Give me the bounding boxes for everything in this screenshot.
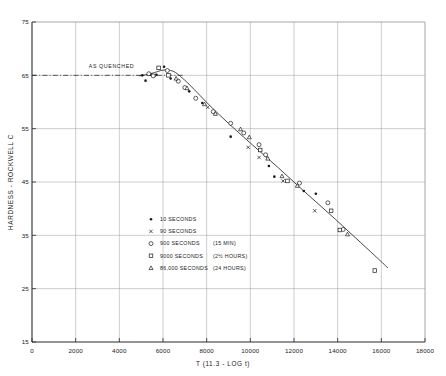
legend-marker-open-circle (149, 242, 153, 246)
legend-marker-filled-circle (150, 218, 153, 221)
as-quenched-label: AS QUENCHED (89, 63, 134, 69)
x-tick-label: 0 (30, 347, 34, 354)
data-point-open-circle (194, 96, 198, 100)
y-tick-label: 15 (22, 338, 30, 345)
y-axis-title: HARDNESS - ROCKWELL C (7, 134, 14, 230)
legend-item: 9000 SECONDS(2½ HOURS) (149, 253, 247, 259)
x-tick-label: 14000 (329, 347, 348, 354)
hardness-vs-tempering-parameter-chart: 0200040006000800010000120001400016000180… (0, 0, 446, 376)
data-point-open-square (338, 228, 342, 232)
chart-container: 0200040006000800010000120001400016000180… (0, 0, 446, 376)
x-tick-label: 2000 (68, 347, 83, 354)
y-tick-label: 65 (22, 72, 30, 79)
data-point-open-square (329, 209, 333, 213)
data-point-filled-circle (315, 192, 318, 195)
data-point-open-square (157, 66, 161, 70)
data-point-filled-circle (163, 65, 166, 68)
data-point-open-circle (326, 201, 330, 205)
data-point-open-circle (147, 72, 151, 76)
x-tick-label: 12000 (285, 347, 304, 354)
data-point-open-circle (151, 74, 155, 78)
x-tick-label: 16000 (372, 347, 391, 354)
legend-label: 86,000 SECONDS (160, 265, 208, 271)
legend-item: 86,000 SECONDS(24 HOURS) (149, 265, 246, 271)
x-tick-label: 6000 (156, 347, 171, 354)
legend-item: 900 SECONDS(15 MIN) (149, 240, 236, 246)
x-axis-title: T (11.3 - LOG t) (196, 360, 250, 368)
data-point-open-square (167, 74, 171, 78)
data-point-open-circle (229, 121, 233, 125)
y-tick-label: 25 (22, 285, 30, 292)
data-point-open-circle (242, 131, 246, 135)
data-point-open-circle (264, 153, 268, 157)
data-point-open-square (373, 269, 377, 273)
legend-label: 90 SECONDS (160, 228, 197, 234)
data-point-filled-circle (229, 135, 232, 138)
legend-label: 10 SECONDS (160, 216, 197, 222)
x-tick-label: 18000 (416, 347, 435, 354)
data-point-open-square (258, 148, 262, 152)
data-point-filled-circle (169, 77, 172, 80)
legend-suffix: (2½ HOURS) (213, 253, 248, 259)
y-tick-label: 55 (22, 125, 30, 132)
legend-marker-open-square (149, 254, 153, 258)
y-tick-label: 45 (22, 178, 30, 185)
x-tick-label: 8000 (199, 347, 214, 354)
annotations: AS QUENCHED (89, 63, 134, 69)
legend-label: 9000 SECONDS (160, 253, 203, 259)
data-point-filled-circle (273, 175, 276, 178)
data-point-open-square (286, 179, 290, 183)
data-point-filled-circle (268, 165, 271, 168)
legend-suffix: (15 MIN) (213, 240, 236, 246)
data-point-filled-circle (144, 79, 147, 82)
y-tick-label: 35 (22, 232, 30, 239)
x-tick-label: 4000 (112, 347, 127, 354)
data-point-open-circle (257, 143, 261, 147)
x-tick-label: 10000 (241, 347, 260, 354)
chart-background (0, 0, 446, 376)
data-point-filled-circle (303, 190, 306, 193)
legend-suffix: (24 HOURS) (213, 265, 246, 271)
legend-label: 900 SECONDS (160, 240, 200, 246)
data-point-filled-circle (188, 90, 191, 93)
y-tick-label: 75 (22, 18, 30, 25)
data-point-filled-circle (141, 74, 144, 77)
data-point-open-circle (165, 69, 169, 73)
